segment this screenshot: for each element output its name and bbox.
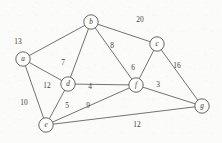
- graph-edge-d-e: [49, 90, 64, 118]
- edge-weight-b-c: 20: [136, 15, 144, 24]
- graph-node-g[interactable]: g: [195, 99, 209, 113]
- graph-edge-d-f: [75, 84, 129, 85]
- graph-node-d[interactable]: d: [61, 77, 75, 91]
- edge-weight-b-d: 7: [61, 58, 65, 67]
- graph-edge-b-c: [98, 24, 150, 41]
- edge-weight-d-f: 4: [88, 82, 92, 91]
- graph-edge-c-g: [161, 50, 198, 100]
- edge-weight-e-f: 9: [86, 101, 90, 110]
- graph-edge-a-b: [29, 25, 84, 55]
- graph-node-c[interactable]: c: [150, 37, 164, 51]
- edge-weight-a-d: 12: [43, 81, 51, 90]
- edge-weight-b-f: 8: [110, 41, 114, 50]
- graph-node-e[interactable]: e: [39, 118, 53, 132]
- graph-edge-c-f: [139, 50, 153, 78]
- node-label-d: d: [66, 80, 70, 88]
- graph-edge-e-g: [53, 107, 195, 124]
- node-label-b: b: [89, 18, 93, 26]
- edge-weight-e-g: 12: [133, 120, 141, 129]
- nodes-layer: abcdefg: [16, 15, 209, 132]
- edge-weight-a-b: 13: [14, 37, 22, 46]
- edge-weight-a-e: 10: [20, 98, 28, 107]
- graph-figure: abcdefg 1320786161210459312: [0, 0, 222, 143]
- graph-edge-e-f: [53, 88, 130, 122]
- graph-edge-b-f: [95, 28, 132, 79]
- graph-edge-f-g: [143, 87, 195, 104]
- graph-node-f[interactable]: f: [129, 78, 143, 92]
- graph-node-b[interactable]: b: [84, 15, 98, 29]
- graph-edge-a-e: [25, 66, 43, 118]
- graph-node-a[interactable]: a: [16, 52, 30, 66]
- edge-weight-d-e: 5: [65, 101, 69, 110]
- graph-edge-a-d: [29, 63, 61, 81]
- edge-weight-c-g: 16: [173, 61, 181, 70]
- edges-layer: [25, 24, 197, 124]
- edge-weight-f-g: 3: [156, 80, 160, 89]
- edge-weight-c-f: 6: [131, 63, 135, 72]
- graph-edge-b-d: [71, 29, 89, 78]
- node-label-a: a: [21, 55, 25, 63]
- graph-canvas: abcdefg 1320786161210459312: [0, 0, 222, 143]
- node-label-g: g: [200, 102, 204, 110]
